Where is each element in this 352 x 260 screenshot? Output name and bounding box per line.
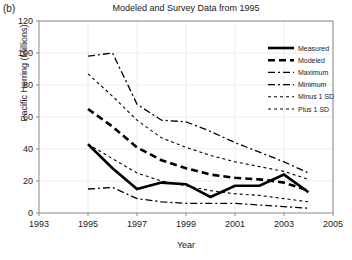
data-series (88, 53, 309, 208)
chart-legend: MeasuredModeledMaximumMinimumMinus 1 SDP… (268, 45, 334, 113)
series-line-minus-1-sd (88, 144, 309, 202)
tick-label-x: 1997 (127, 219, 147, 229)
tick-label-x: 1995 (78, 219, 98, 229)
series-line-measured (88, 144, 309, 197)
tick-label-x: 1999 (176, 219, 196, 229)
axis-ticks (36, 21, 333, 216)
axis-tick-labels: 0204060801001201993199519971999200120032… (18, 16, 343, 229)
legend-label: Modeled (298, 57, 325, 64)
legend-label: Measured (298, 45, 329, 52)
tick-label-x: 1993 (29, 219, 49, 229)
x-axis-label: Year (39, 240, 333, 250)
tick-label-x: 2005 (323, 219, 343, 229)
legend-label: Maximum (298, 69, 329, 76)
legend-label: Minus 1 SD (298, 93, 334, 100)
legend-label: Minimum (298, 81, 327, 88)
legend-label: Plus 1 SD (298, 106, 329, 113)
series-line-maximum (88, 53, 309, 173)
y-axis-label: Pacific Herring (Millions) (19, 0, 29, 148)
tick-label-x: 2001 (225, 219, 245, 229)
tick-label-y: 0 (28, 208, 33, 218)
chart-plot-area: 0204060801001201993199519971999200120032… (0, 0, 352, 260)
chart-title: Modeled and Survey Data from 1995 (39, 3, 333, 13)
figure: (b) Modeled and Survey Data from 1995 Pa… (0, 0, 352, 260)
panel-label: (b) (3, 3, 15, 14)
tick-label-y: 20 (23, 176, 33, 186)
tick-label-x: 2003 (274, 219, 294, 229)
